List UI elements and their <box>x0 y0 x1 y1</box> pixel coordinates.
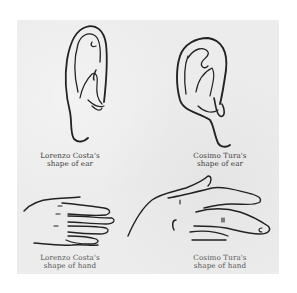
costa-ear-drawing <box>66 26 107 141</box>
caption-costa-ear: Lorenzo Costa's shape of ear <box>30 152 110 169</box>
tura-hand-drawing <box>128 176 270 240</box>
costa-hand-drawing <box>24 197 114 245</box>
tura-ear-drawing <box>177 38 230 147</box>
caption-line: shape of hand <box>176 262 264 270</box>
illustration-drawings <box>0 0 297 293</box>
caption-line: shape of ear <box>30 160 110 168</box>
caption-line: shape of hand <box>30 262 110 270</box>
caption-tura-hand: Cosimo Tura's shape of hand <box>176 254 264 271</box>
caption-tura-ear: Cosimo Tura's shape of ear <box>180 152 260 169</box>
caption-line: shape of ear <box>180 160 260 168</box>
caption-costa-hand: Lorenzo Costa's shape of hand <box>30 254 110 271</box>
